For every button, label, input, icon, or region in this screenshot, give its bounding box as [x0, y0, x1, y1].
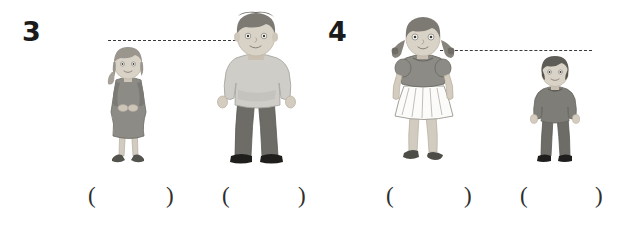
problem-4: 4 [316, 0, 632, 228]
answer-slot-3-close[interactable]: ) [464, 184, 472, 207]
figure-tall-man [214, 12, 298, 170]
problem-number-3: 3 [22, 18, 40, 45]
answer-slot-4-close[interactable]: ) [595, 184, 603, 207]
answer-slot-4-open[interactable]: ( [520, 184, 528, 207]
answer-slot-1-open[interactable]: ( [88, 184, 96, 207]
answer-slot-2-close[interactable]: ) [298, 184, 306, 207]
figure-short-boy [528, 56, 582, 170]
worksheet-canvas: 3 [0, 0, 632, 228]
figure-short-girl [100, 46, 156, 170]
answer-slot-1-close[interactable]: ) [166, 184, 174, 207]
figure-tall-girl [382, 16, 462, 170]
problem-3: 3 [0, 0, 316, 228]
answer-slot-3-open[interactable]: ( [386, 184, 394, 207]
problem-number-4: 4 [328, 18, 346, 45]
answer-slot-2-open[interactable]: ( [222, 184, 230, 207]
height-reference-line-4 [440, 50, 592, 51]
